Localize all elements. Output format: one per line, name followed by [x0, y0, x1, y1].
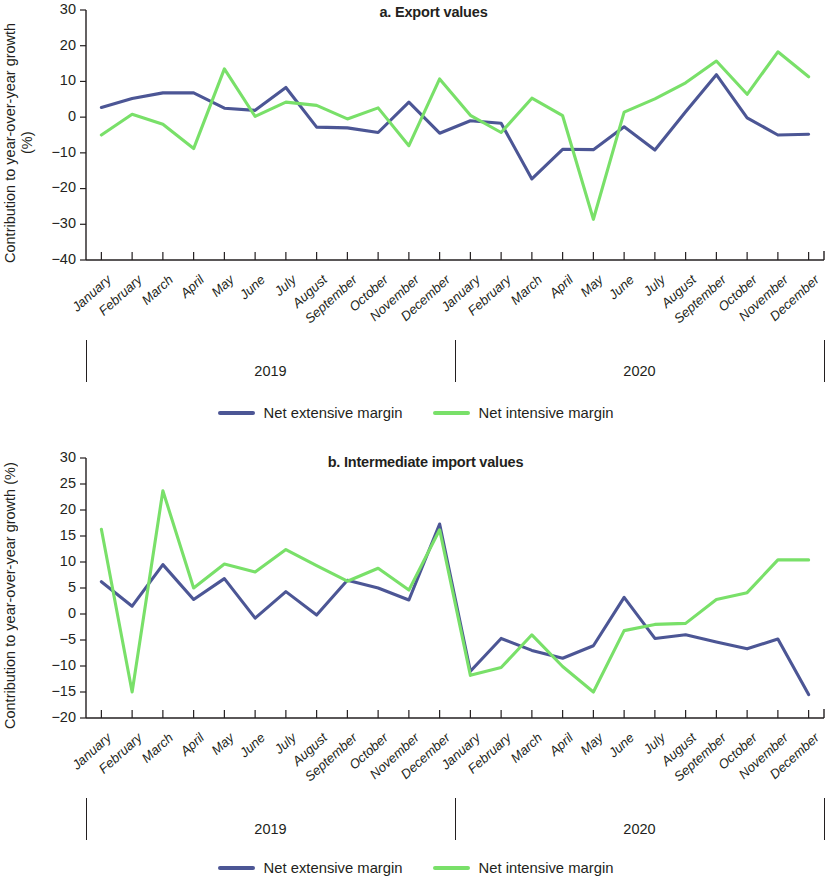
legend-item-net-intensive-margin: Net intensive margin [433, 860, 614, 876]
legend-swatch-extensive-icon [218, 411, 255, 414]
year-label-2019: 2019 [86, 363, 455, 379]
y-tick-label: 0 [68, 108, 76, 124]
legend-label-extensive: Net extensive margin [264, 405, 403, 421]
legend-label-intensive: Net intensive margin [479, 405, 614, 421]
chart-a-legend: Net extensive margin Net intensive margi… [0, 405, 831, 421]
series-line-net-intensive-margin [101, 52, 808, 220]
series-line-net-extensive-margin [101, 75, 808, 179]
chart-b-svg: 302520151050−5−10−15−20 [44, 456, 826, 728]
y-tick-label: −10 [51, 657, 76, 673]
y-tick-label: −15 [51, 683, 76, 699]
y-tick-label: 0 [68, 605, 76, 621]
legend-item-net-extensive-margin: Net extensive margin [218, 860, 403, 876]
legend-item-net-extensive-margin: Net extensive margin [218, 405, 403, 421]
chart-b-plot-area: 302520151050−5−10−15−20 [44, 456, 826, 728]
legend-label-intensive: Net intensive margin [479, 860, 614, 876]
y-tick-label: −10 [51, 144, 76, 160]
y-tick-label: 25 [60, 475, 76, 491]
legend-swatch-intensive-icon [433, 866, 470, 869]
y-tick-label: 15 [60, 527, 76, 543]
y-tick-label: −20 [51, 179, 76, 195]
y-tick-label: 20 [60, 37, 76, 53]
chart-b-y-axis-label: Contribution to year-over-year growth (%… [2, 458, 42, 733]
legend-label-extensive: Net extensive margin [264, 860, 403, 876]
y-tick-label: 10 [60, 72, 76, 88]
chart-panel-export-values: a. Export values Contribution to year-ov… [0, 0, 831, 440]
chart-panel-intermediate-import-values: b. Intermediate import values Contributi… [0, 448, 831, 895]
year-label-2020: 2020 [455, 363, 824, 379]
chart-a-svg: 3020100−10−20−30−40 [44, 8, 826, 270]
y-tick-label: 30 [60, 1, 76, 17]
y-tick-label: 10 [60, 553, 76, 569]
chart-a-y-axis-label: Contribution to year-over-year growth (%… [2, 10, 42, 275]
y-tick-label: −5 [59, 631, 76, 647]
legend-swatch-extensive-icon [218, 866, 255, 869]
y-tick-label: −30 [51, 215, 76, 231]
chart-a-x-tick-labels: JanuaryFebruaryMarchAprilMayJuneJulyAugu… [0, 272, 831, 273]
legend-swatch-intensive-icon [433, 411, 470, 414]
chart-b-x-tick-labels: JanuaryFebruaryMarchAprilMayJuneJulyAugu… [0, 730, 831, 731]
chart-b-legend: Net extensive margin Net intensive margi… [0, 860, 831, 876]
y-tick-label: 5 [68, 579, 76, 595]
chart-a-plot-area: 3020100−10−20−30−40 [44, 8, 826, 270]
year-band-separator [824, 340, 825, 382]
y-tick-label: 20 [60, 501, 76, 517]
y-tick-label: 30 [60, 449, 76, 465]
year-label-2019: 2019 [86, 821, 455, 837]
year-band-separator [824, 798, 825, 840]
y-tick-label: −40 [51, 251, 76, 267]
legend-item-net-intensive-margin: Net intensive margin [433, 405, 614, 421]
year-label-2020: 2020 [455, 821, 824, 837]
figure-root: a. Export values Contribution to year-ov… [0, 0, 831, 895]
y-tick-label: −20 [51, 709, 76, 725]
